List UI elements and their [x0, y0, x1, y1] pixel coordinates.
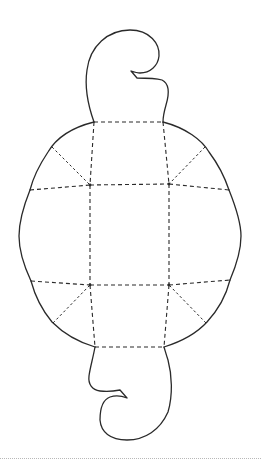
fold-left-vertical-bottom	[90, 285, 95, 347]
fold-top-horizontal	[30, 185, 90, 190]
fold-left-vertical-top	[90, 122, 94, 185]
fold-diag-bottom-right	[169, 285, 206, 323]
fold-diag-bottom-left	[53, 285, 90, 323]
vertex-bottom-right	[168, 284, 171, 287]
box-template-diagram	[0, 0, 261, 474]
vertex-top-right	[168, 183, 171, 186]
vertex-top-left	[89, 184, 92, 187]
left-flap-arc	[19, 190, 31, 281]
right-flap-arc	[229, 190, 241, 280]
bottom-left-arc	[31, 281, 95, 347]
top-curl-tab	[86, 30, 168, 122]
fold-top-horizontal-center	[90, 184, 169, 185]
fold-diag-top-right	[169, 147, 205, 184]
fold-top-horizontal-right	[169, 184, 229, 190]
fold-diag-top-left	[52, 147, 90, 185]
fold-bottom-horizontal	[31, 281, 90, 285]
bottom-curl-tab	[89, 347, 172, 440]
vertex-bottom-left	[89, 284, 92, 287]
page-baseline-divider	[0, 458, 261, 459]
fold-bottom-horizontal-right	[169, 280, 230, 285]
fold-right-vertical-bottom	[164, 285, 169, 347]
fold-right-vertical-top	[163, 122, 169, 184]
